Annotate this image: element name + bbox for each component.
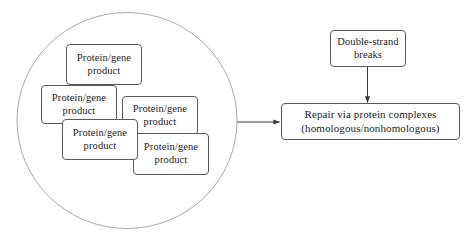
protein-gene-product-box-1[interactable]: Protein/geneproduct — [66, 44, 142, 85]
protein-gene-product-label-2: Protein/geneproduct — [49, 92, 109, 118]
double-strand-breaks-box[interactable]: Double-strandbreaks — [330, 30, 406, 67]
repair-via-protein-complexes-box[interactable]: Repair via protein complexes(homologous/… — [281, 103, 460, 140]
protein-gene-product-box-4[interactable]: Protein/geneproduct — [62, 119, 138, 160]
protein-gene-product-label-5: Protein/geneproduct — [141, 141, 201, 167]
protein-gene-product-label-1: Protein/geneproduct — [74, 52, 134, 78]
protein-gene-product-box-5[interactable]: Protein/geneproduct — [133, 133, 209, 175]
double-strand-breaks-label: Double-strandbreaks — [334, 36, 401, 62]
protein-gene-product-label-3: Protein/geneproduct — [130, 103, 190, 129]
protein-gene-product-label-4: Protein/geneproduct — [70, 127, 130, 153]
repair-via-protein-complexes-label: Repair via protein complexes(homologous/… — [298, 108, 442, 135]
figure-canvas: Protein/geneproduct Protein/geneproduct … — [0, 0, 473, 234]
